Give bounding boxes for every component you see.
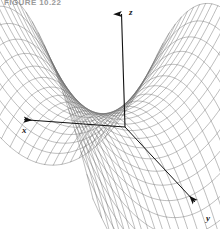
mesh-line <box>114 76 220 229</box>
mesh-line <box>0 0 212 114</box>
z-axis-label: z <box>128 7 133 17</box>
mesh-line <box>2 0 218 116</box>
mesh-line <box>14 0 220 124</box>
y-axis-line <box>125 127 195 202</box>
axes-group <box>24 14 195 202</box>
mesh-line <box>0 23 110 229</box>
surface-plot-svg: z x y <box>0 0 220 229</box>
mesh-line <box>45 113 197 229</box>
mesh-line <box>0 0 206 114</box>
mesh-line <box>131 51 220 229</box>
x-axis-label: x <box>21 125 27 135</box>
y-axis-label: y <box>205 213 211 223</box>
mesh-line <box>0 0 193 117</box>
mesh-line <box>0 0 200 115</box>
mesh-line <box>53 114 205 229</box>
figure-container: FIGURE 10.22 z x y <box>0 0 220 229</box>
mesh-line <box>0 39 119 229</box>
mesh-line <box>0 0 93 199</box>
surface-mesh <box>0 0 220 229</box>
mesh-line <box>148 21 220 229</box>
